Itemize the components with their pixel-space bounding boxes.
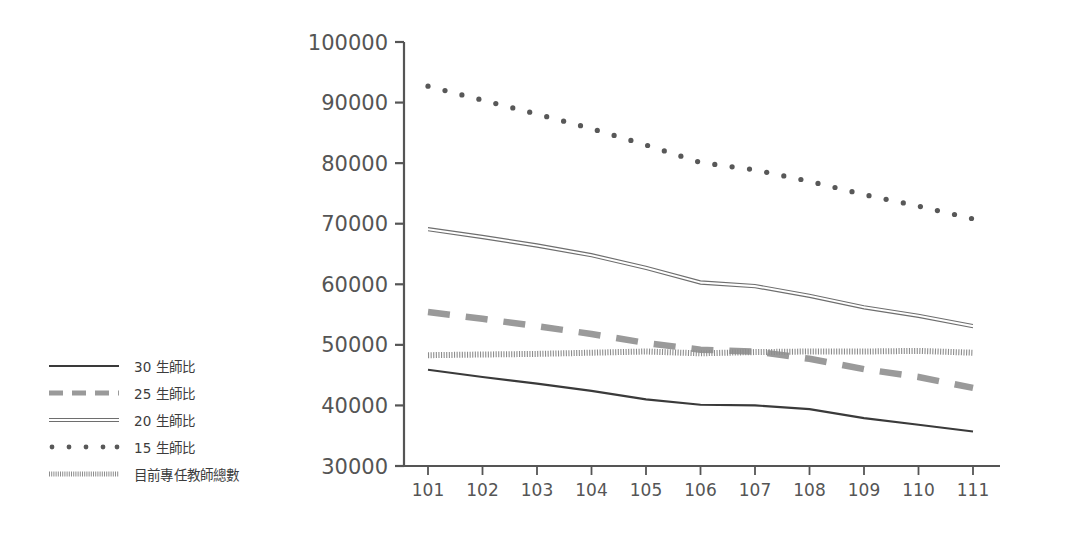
x-axis-tick-label: 102: [466, 480, 498, 500]
x-axis-tick-label: 105: [630, 480, 662, 500]
series-dot: [832, 185, 837, 190]
series-dot: [695, 159, 700, 164]
y-axis-tick-label: 80000: [321, 152, 388, 176]
series-dot: [561, 119, 566, 124]
series-dot: [527, 110, 532, 115]
series-dot: [918, 204, 923, 209]
series-dot: [612, 133, 617, 138]
series-dot: [645, 143, 650, 148]
series-dot: [662, 148, 667, 153]
series-dot: [935, 208, 940, 213]
y-axis-tick-label: 70000: [321, 212, 388, 236]
series-dot: [884, 197, 889, 202]
series-stroke: [428, 228, 973, 325]
y-axis-tick-label: 100000: [308, 31, 388, 55]
series-line-0: [428, 370, 973, 432]
series-dot: [781, 173, 786, 178]
series-dot: [747, 167, 752, 172]
series-dot: [764, 170, 769, 175]
x-axis-tick-label: 109: [848, 480, 880, 500]
series-dot: [628, 138, 633, 143]
series-dot: [510, 105, 515, 110]
series-dot: [425, 84, 430, 89]
x-axis-tick-label: 108: [793, 480, 825, 500]
x-axis-tick-label: 106: [684, 480, 716, 500]
series-dot: [730, 164, 735, 169]
series-dot: [442, 88, 447, 93]
x-axis-tick-label: 103: [521, 480, 553, 500]
series-dot: [901, 200, 906, 205]
y-axis-tick-label: 30000: [321, 455, 388, 479]
y-axis-tick-label: 50000: [321, 333, 388, 357]
series-dot: [815, 181, 820, 186]
series-dot: [712, 162, 717, 167]
chart-root: 30 生師比 25 生師比 20 生師比: [0, 0, 1085, 534]
series-dot: [493, 101, 498, 106]
series-dot: [866, 193, 871, 198]
x-axis-tick-label: 110: [902, 480, 934, 500]
y-axis-tick-label: 90000: [321, 91, 388, 115]
y-axis-tick-label: 40000: [321, 394, 388, 418]
x-axis-tick-label: 101: [412, 480, 444, 500]
series-dot: [849, 189, 854, 194]
series-line-2: [428, 228, 973, 328]
series-dot: [595, 128, 600, 133]
series-dot: [678, 154, 683, 159]
series-dot: [798, 177, 803, 182]
series-dot: [578, 123, 583, 128]
line-chart-plot: 1000009000080000700006000050000400003000…: [0, 0, 1085, 534]
x-axis-tick-label: 104: [575, 480, 607, 500]
x-axis-tick-label: 107: [739, 480, 771, 500]
series-dot: [459, 92, 464, 97]
series-dot: [544, 114, 549, 119]
series-line-3: [425, 84, 974, 222]
y-axis-tick-label: 60000: [321, 273, 388, 297]
series-dot: [969, 216, 974, 221]
series-dot: [476, 97, 481, 102]
x-axis-tick-label: 111: [957, 480, 989, 500]
series-stroke: [428, 231, 973, 328]
series-dot: [952, 212, 957, 217]
